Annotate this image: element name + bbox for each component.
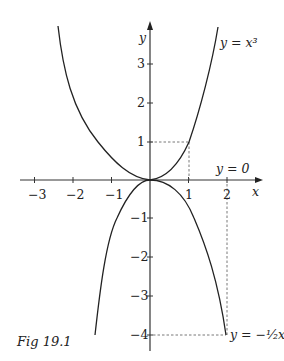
x-tick-label: −3 xyxy=(28,187,46,202)
y-tick-label: −3 xyxy=(130,288,148,303)
x-tick-label: −1 xyxy=(105,187,123,202)
x-tick-label: 2 xyxy=(223,187,231,202)
y-tick-label: 3 xyxy=(137,56,145,71)
zero-line-label: y = 0 xyxy=(215,161,249,176)
x-axis-label: x xyxy=(252,184,259,199)
y-tick-label: −4 xyxy=(130,327,148,342)
y-tick-label: 1 xyxy=(137,134,145,149)
graph-figure: −3 −2 −1 1 2 3 2 1 −1 −2 −3 −4 y x y = x… xyxy=(0,0,284,361)
x-axis-arrow-icon xyxy=(255,177,263,183)
curve-lower-label: y = −¹⁄₂x³ xyxy=(229,327,284,342)
figure-caption: Fig 19.1 xyxy=(16,334,72,349)
x-tick-label: −2 xyxy=(66,187,84,202)
y-axis-label: y xyxy=(138,30,147,45)
y-tick-label: −1 xyxy=(130,210,148,225)
y-axis-arrow-icon xyxy=(147,21,153,30)
curve-upper-label: y = x³ xyxy=(219,35,258,50)
x-tick-label: 1 xyxy=(185,187,193,202)
curve-lower xyxy=(95,180,226,335)
y-tick-label: −2 xyxy=(130,249,148,264)
y-tick-label: 2 xyxy=(137,95,145,110)
